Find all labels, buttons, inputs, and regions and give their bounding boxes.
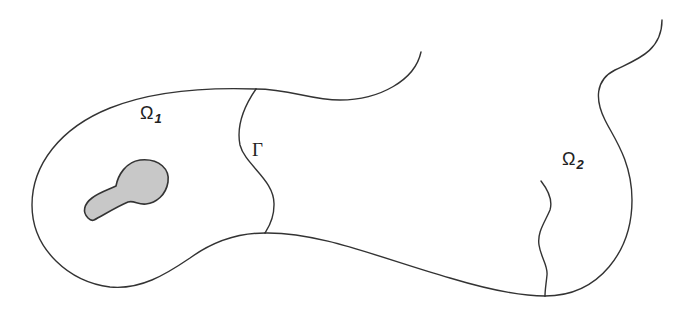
omega2-subscript: 2	[576, 157, 583, 172]
omega2-label: Ω2	[562, 150, 584, 168]
omega2-top-boundary	[256, 52, 421, 100]
omega1-label: Ω1	[140, 104, 162, 122]
omega1-symbol: Ω	[140, 103, 153, 123]
gamma-symbol: Γ	[252, 139, 263, 160]
gamma-label: Γ	[252, 140, 263, 159]
omega2-inner-curve	[539, 181, 551, 296]
omega2-symbol: Ω	[562, 149, 575, 169]
obstacle-shape	[85, 160, 169, 221]
omega1-subscript: 1	[154, 111, 161, 126]
interface-gamma	[239, 89, 274, 233]
omega2-bottom-boundary	[265, 233, 545, 296]
